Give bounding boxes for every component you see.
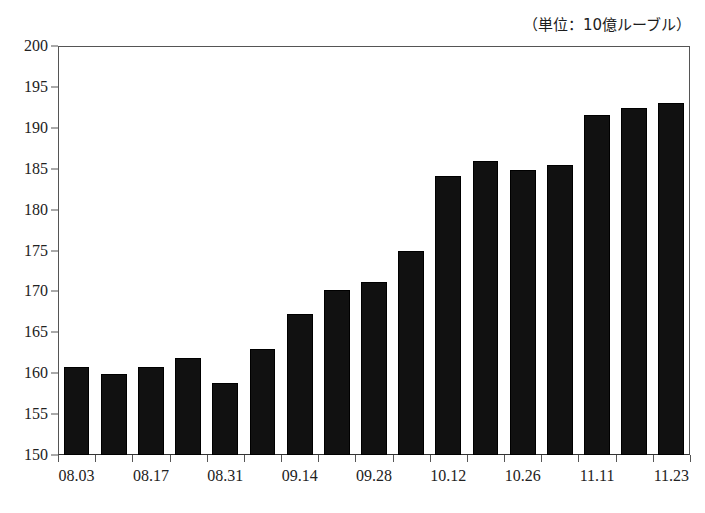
x-axis-tick-label: 08.17 — [133, 467, 169, 485]
y-axis-tick-label: 160 — [24, 364, 48, 382]
bar — [175, 358, 201, 455]
x-axis-tick-mark — [653, 455, 654, 462]
y-axis-tick-label: 175 — [24, 242, 48, 260]
y-axis-tick-mark — [51, 46, 58, 47]
x-axis-tick-mark — [95, 455, 96, 462]
x-axis-tick-mark — [393, 455, 394, 462]
y-axis-tick-label: 190 — [24, 119, 48, 137]
bars-layer — [58, 46, 690, 455]
y-axis-tick-label: 155 — [24, 405, 48, 423]
x-axis-tick-label: 09.28 — [356, 467, 392, 485]
y-axis-tick-mark — [51, 86, 58, 87]
x-axis-tick-label: 08.31 — [207, 467, 243, 485]
y-axis-tick-label: 170 — [24, 282, 48, 300]
x-axis: 08.0308.1708.3109.1409.2810.1210.2611.11… — [58, 455, 690, 513]
x-axis-tick-mark — [355, 455, 356, 462]
chart-root: （単位：10億ルーブル） 200195190185180175170165160… — [0, 0, 705, 513]
y-axis-tick-mark — [51, 414, 58, 415]
x-axis-tick-mark — [244, 455, 245, 462]
x-axis-tick-mark — [430, 455, 431, 462]
bar — [473, 161, 499, 455]
x-axis-tick-label: 11.23 — [654, 467, 689, 485]
y-axis-tick-mark — [51, 291, 58, 292]
x-axis-tick-mark — [132, 455, 133, 462]
x-axis-tick-label: 09.14 — [282, 467, 318, 485]
x-axis-tick-mark — [58, 455, 59, 462]
y-axis-tick-mark — [51, 168, 58, 169]
y-axis-tick-mark — [51, 332, 58, 333]
x-axis-tick-mark — [170, 455, 171, 462]
y-axis-tick-mark — [51, 455, 58, 456]
bar — [435, 176, 461, 455]
y-axis: 200195190185180175170165160155150 — [0, 46, 58, 455]
x-axis-tick-label: 11.11 — [580, 467, 615, 485]
x-axis-tick-mark — [578, 455, 579, 462]
x-axis-tick-label: 10.12 — [430, 467, 466, 485]
bar — [64, 367, 90, 455]
bar — [398, 251, 424, 456]
y-axis-tick-label: 200 — [24, 37, 48, 55]
bar — [324, 290, 350, 455]
y-axis-tick-label: 185 — [24, 160, 48, 178]
x-axis-tick-mark — [318, 455, 319, 462]
y-axis-tick-label: 180 — [24, 201, 48, 219]
bar — [584, 115, 610, 455]
y-axis-tick-label: 150 — [24, 446, 48, 464]
x-axis-tick-mark — [467, 455, 468, 462]
y-axis-tick-label: 195 — [24, 78, 48, 96]
bar — [658, 103, 684, 455]
x-axis-tick-mark — [690, 455, 691, 462]
x-axis-tick-mark — [616, 455, 617, 462]
bar — [361, 282, 387, 455]
x-axis-tick-mark — [541, 455, 542, 462]
bar — [138, 367, 164, 455]
bar — [287, 314, 313, 456]
x-axis-tick-label: 10.26 — [505, 467, 541, 485]
x-axis-tick-mark — [207, 455, 208, 462]
bar — [547, 165, 573, 455]
x-axis-tick-mark — [504, 455, 505, 462]
y-axis-tick-mark — [51, 373, 58, 374]
bar — [212, 383, 238, 455]
y-axis-tick-mark — [51, 209, 58, 210]
bar — [101, 374, 127, 455]
x-axis-tick-label: 08.03 — [59, 467, 95, 485]
bar — [621, 108, 647, 455]
x-axis-tick-mark — [281, 455, 282, 462]
bar — [510, 170, 536, 455]
bar — [250, 349, 276, 455]
y-axis-tick-label: 165 — [24, 323, 48, 341]
unit-caption: （単位：10億ルーブル） — [523, 13, 691, 34]
y-axis-tick-mark — [51, 127, 58, 128]
y-axis-tick-mark — [51, 250, 58, 251]
